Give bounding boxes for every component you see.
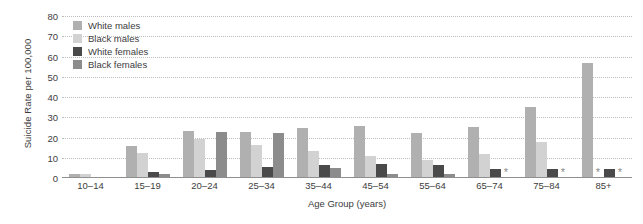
legend-item: White females	[73, 45, 148, 57]
y-tick-label: 40	[32, 92, 58, 103]
asterisk-icon: *	[558, 168, 569, 177]
x-axis-tick-labels: 10–1415–1920–2425–3435–4445–5455–6465–74…	[62, 180, 632, 191]
bar-group: **	[575, 16, 632, 178]
bar	[365, 16, 376, 178]
bar	[422, 16, 433, 178]
bar	[319, 16, 330, 178]
bar	[240, 16, 251, 178]
bar-fill	[126, 146, 137, 178]
bar-fill	[376, 164, 387, 178]
bar	[354, 16, 365, 178]
bar	[308, 16, 319, 178]
y-tick-label: 10	[32, 152, 58, 163]
bar	[468, 16, 479, 178]
asterisk-icon: *	[501, 168, 512, 177]
bar	[216, 16, 227, 178]
bar-fill	[479, 154, 490, 178]
x-tick-label: 45–54	[347, 180, 404, 191]
bar	[148, 16, 159, 178]
suppressed-value-marker: *	[615, 16, 626, 178]
bar	[183, 16, 194, 178]
bar-fill	[422, 160, 433, 178]
legend-swatch-icon	[73, 47, 82, 56]
x-tick-label: 55–64	[404, 180, 461, 191]
bar-fill	[183, 131, 194, 178]
chart-legend: White malesBlack malesWhite femalesBlack…	[73, 19, 148, 70]
x-tick-label: 75–84	[518, 180, 575, 191]
legend-item: Black males	[73, 32, 148, 44]
bar-fill	[216, 132, 227, 178]
x-tick-label: 25–34	[233, 180, 290, 191]
legend-item: White males	[73, 19, 148, 31]
bar-fill	[411, 133, 422, 178]
bar	[536, 16, 547, 178]
bar-fill	[365, 156, 376, 178]
x-axis-line	[62, 177, 632, 178]
bar-group	[347, 16, 404, 178]
suppressed-value-marker: *	[501, 16, 512, 178]
bar	[547, 16, 558, 178]
y-tick-label: 60	[32, 51, 58, 62]
legend-label: Black males	[88, 33, 139, 44]
bar-group: *	[518, 16, 575, 178]
bar-fill	[240, 132, 251, 178]
x-axis-title: Age Group (years)	[62, 198, 632, 209]
bar	[604, 16, 615, 178]
bar	[433, 16, 444, 178]
bar	[479, 16, 490, 178]
bar	[525, 16, 536, 178]
suicide-rate-bar-chart: Suicide Rate per 100,000 010203040506070…	[0, 0, 643, 224]
y-tick-label: 30	[32, 112, 58, 123]
y-tick-label: 70	[32, 31, 58, 42]
bar	[411, 16, 422, 178]
legend-swatch-icon	[73, 60, 82, 69]
bar-group	[290, 16, 347, 178]
bar-group: *	[461, 16, 518, 178]
bar	[582, 16, 593, 178]
x-tick-label: 10–14	[62, 180, 119, 191]
bar-fill	[297, 128, 308, 178]
legend-label: Black females	[88, 59, 147, 70]
bar-group	[404, 16, 461, 178]
bar-fill	[582, 63, 593, 178]
bar-fill	[525, 107, 536, 178]
bar-fill	[308, 151, 319, 178]
bar-fill	[137, 153, 148, 178]
bar-fill	[354, 126, 365, 178]
bar-group	[176, 16, 233, 178]
bar	[444, 16, 455, 178]
legend-swatch-icon	[73, 21, 82, 30]
x-tick-label: 65–74	[461, 180, 518, 191]
bar	[194, 16, 205, 178]
legend-swatch-icon	[73, 34, 82, 43]
bar	[251, 16, 262, 178]
asterisk-icon: *	[593, 168, 604, 177]
suppressed-value-marker: *	[558, 16, 569, 178]
y-tick-label: 80	[32, 11, 58, 22]
x-tick-label: 20–24	[176, 180, 233, 191]
x-tick-label: 15–19	[119, 180, 176, 191]
x-tick-label: 85+	[575, 180, 632, 191]
bar-fill	[251, 145, 262, 178]
bar-fill	[468, 127, 479, 178]
y-tick-label: 0	[32, 173, 58, 184]
bar	[376, 16, 387, 178]
y-tick-label: 50	[32, 71, 58, 82]
x-tick-label: 35–44	[290, 180, 347, 191]
bar-fill	[273, 133, 284, 178]
bar-group	[233, 16, 290, 178]
bar	[297, 16, 308, 178]
asterisk-icon: *	[615, 168, 626, 177]
legend-item: Black females	[73, 58, 148, 70]
suppressed-value-marker: *	[593, 16, 604, 178]
bar	[273, 16, 284, 178]
bar-fill	[194, 139, 205, 178]
legend-label: White males	[88, 20, 140, 31]
bar	[159, 16, 170, 178]
y-tick-label: 20	[32, 132, 58, 143]
legend-label: White females	[88, 46, 148, 57]
bar	[205, 16, 216, 178]
bar	[330, 16, 341, 178]
y-axis-title: Suicide Rate per 100,000	[22, 9, 33, 179]
bar	[262, 16, 273, 178]
